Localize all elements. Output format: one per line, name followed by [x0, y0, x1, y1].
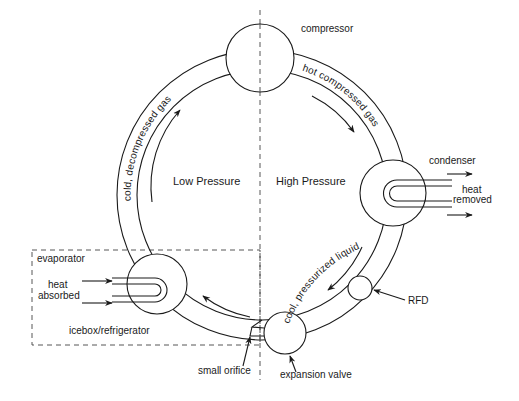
condenser-label: condenser: [429, 155, 476, 166]
low-pressure-label: Low Pressure: [173, 175, 240, 187]
small-orifice-shape: [250, 320, 264, 336]
compressor-circle: [226, 24, 294, 92]
small-orifice-pointer: [243, 337, 250, 366]
rfd-pointer: [374, 290, 405, 300]
small-orifice-label: small orifice: [198, 365, 251, 376]
cold-gas-label: cold, decompressed gas: [122, 93, 174, 201]
heat-absorbed-label-2: absorbed: [38, 290, 80, 301]
heat-removed-label-2: removed: [453, 194, 492, 205]
hot-gas-label: hot compressed gas: [301, 62, 381, 128]
expansion-valve-label: expansion valve: [280, 369, 352, 380]
flow-arrow-up-left: [151, 110, 180, 202]
flow-arrow-left: [203, 296, 250, 317]
flow-arrow-down-right: [312, 96, 354, 132]
evaporator-label: evaporator: [37, 253, 85, 264]
refrigeration-cycle-diagram: cold, decompressed gas hot compressed ga…: [0, 0, 519, 401]
rfd-circle: [348, 276, 372, 300]
rfd-label: RFD: [408, 295, 429, 306]
high-pressure-label: High Pressure: [276, 175, 346, 187]
compressor-label: compressor: [301, 23, 354, 34]
condenser-circle: [360, 160, 452, 226]
heat-absorbed-arrows: [82, 281, 112, 303]
icebox-label: icebox/refrigerator: [69, 325, 150, 336]
evaporator-circle: [112, 254, 187, 314]
heat-absorbed-label-1: heat: [48, 279, 68, 290]
